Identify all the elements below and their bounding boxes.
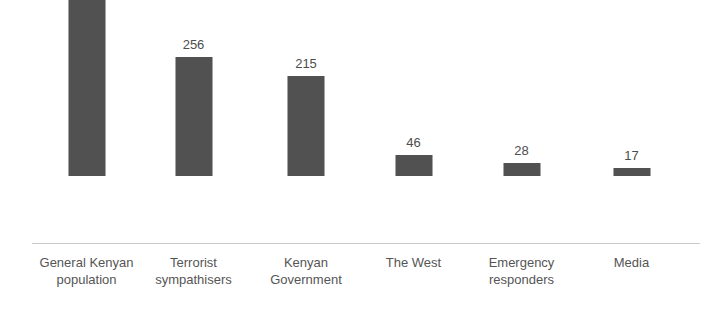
category-label-5-line1: Media [567, 254, 697, 271]
bar-3[interactable] [395, 155, 432, 176]
bar-group-2[interactable]: 215 [288, 76, 325, 176]
bar-1[interactable] [175, 57, 212, 176]
bar-group-3[interactable]: 46 [395, 155, 432, 176]
bar-value-label-1: 256 [183, 38, 205, 51]
bar-0[interactable] [68, 0, 105, 176]
category-label-1-line1: Terrorist [129, 254, 259, 271]
bar-4[interactable] [503, 163, 540, 176]
bar-2[interactable] [288, 76, 325, 176]
bar-value-label-2: 215 [295, 57, 317, 70]
x-axis-line [32, 243, 700, 244]
category-label-1: Terrorist sympathisers [129, 254, 259, 288]
bar-value-label-3: 46 [406, 136, 420, 149]
bar-value-label-4: 28 [514, 144, 528, 157]
bar-value-label-5: 17 [624, 149, 638, 162]
category-label-5: Media [567, 254, 697, 271]
bar-chart: 441 256 215 46 28 17 General Kenyan popu… [0, 0, 708, 311]
category-label-4-line2: responders [457, 271, 587, 288]
bar-group-1[interactable]: 256 [175, 57, 212, 176]
bar-5[interactable] [613, 168, 650, 176]
bar-group-5[interactable]: 17 [613, 168, 650, 176]
bar-group-0[interactable]: 441 [68, 0, 105, 176]
category-label-2-line2: Government [241, 271, 371, 288]
plot-area: 441 256 215 46 28 17 [0, 0, 708, 244]
bar-group-4[interactable]: 28 [503, 163, 540, 176]
category-label-1-line2: sympathisers [129, 271, 259, 288]
